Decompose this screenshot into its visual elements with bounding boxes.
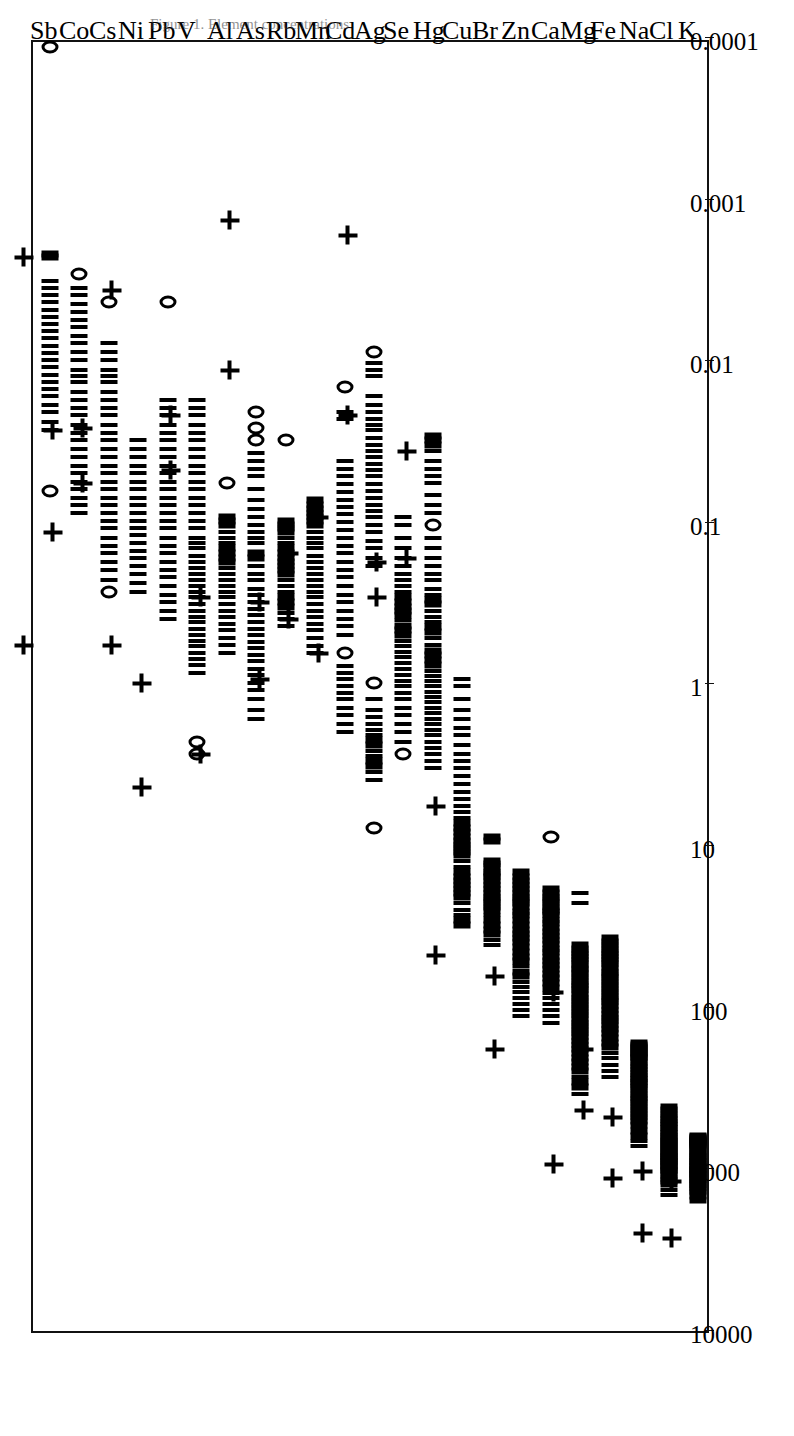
data-point-cd	[336, 551, 353, 555]
data-point-fe	[601, 1069, 618, 1073]
data-point-ni	[130, 519, 147, 523]
data-point-cu	[454, 816, 471, 820]
data-point-cd	[336, 575, 353, 579]
data-point-mn	[307, 566, 324, 570]
data-point-hg	[424, 669, 441, 673]
data-point-cd	[336, 609, 353, 613]
data-point-mn	[307, 590, 324, 594]
data-point-cu	[454, 790, 471, 794]
data-point-hg	[424, 587, 441, 591]
data-point-ni	[130, 447, 147, 451]
category-label-cs: Cs	[89, 18, 116, 44]
data-point-cs	[100, 487, 117, 491]
data-point-cd	[336, 544, 353, 548]
data-point-v	[189, 620, 206, 624]
data-point-co	[71, 406, 88, 410]
summary-marker-cl	[633, 1162, 652, 1181]
summary-marker-ni	[103, 635, 122, 654]
data-point-hg	[424, 752, 441, 756]
data-point-v	[189, 496, 206, 500]
data-point-cd	[336, 528, 353, 532]
data-point-v	[189, 572, 206, 576]
data-point-v	[189, 438, 206, 442]
data-point-ag	[366, 515, 383, 519]
data-point-mg	[572, 901, 589, 905]
data-point-v	[189, 657, 206, 661]
data-point-co	[71, 511, 88, 515]
data-point-v	[189, 471, 206, 475]
data-point-cu	[454, 859, 471, 863]
summary-marker-na	[604, 1169, 623, 1188]
data-point-co	[71, 325, 88, 329]
data-point-cs	[100, 519, 117, 523]
data-point-as	[248, 673, 265, 677]
data-point-se	[395, 515, 412, 519]
data-point-se	[395, 584, 412, 588]
summary-marker-pb	[132, 673, 151, 692]
data-point-sb	[41, 373, 58, 377]
summary-marker-ag	[339, 225, 358, 244]
data-point-zn	[513, 985, 530, 989]
data-point-sb	[41, 485, 58, 498]
data-point-zn	[513, 968, 530, 975]
data-point-na	[631, 1139, 648, 1143]
data-point-co	[71, 350, 88, 354]
data-point-rb	[277, 541, 294, 545]
data-point-as	[248, 451, 265, 455]
data-point-v	[189, 633, 206, 637]
data-point-v	[189, 423, 206, 427]
category-label-co: Co	[59, 18, 89, 44]
data-point-ag	[366, 547, 383, 551]
data-point-cd	[336, 722, 353, 726]
data-point-cu	[454, 726, 471, 730]
data-point-as	[248, 578, 265, 582]
data-point-al	[218, 572, 235, 576]
data-point-cs	[100, 399, 117, 403]
data-point-ag	[366, 503, 383, 507]
summary-marker-as	[221, 211, 240, 230]
summary-marker-cu	[427, 946, 446, 965]
data-point-ag	[366, 423, 383, 427]
data-point-pb	[159, 406, 176, 410]
data-point-na	[631, 1039, 648, 1046]
data-point-ag	[366, 778, 383, 782]
data-point-ag	[366, 564, 383, 568]
data-point-ca	[542, 1002, 559, 1006]
data-point-br	[483, 943, 500, 947]
data-point-v	[189, 595, 206, 599]
data-point-pb	[159, 431, 176, 435]
data-point-ca	[542, 830, 559, 843]
data-point-se	[395, 536, 412, 540]
data-point-as	[248, 523, 265, 527]
summary-marker-cu	[427, 797, 446, 816]
data-point-cd	[336, 671, 353, 675]
data-point-br	[483, 913, 500, 917]
data-point-cd	[336, 474, 353, 478]
data-point-hg	[424, 695, 441, 699]
data-point-cu	[454, 718, 471, 722]
data-point-pb	[159, 575, 176, 579]
category-label-se: Se	[383, 18, 409, 44]
data-point-ag	[366, 374, 383, 378]
data-point-fe	[601, 1051, 618, 1055]
data-point-ag	[366, 697, 383, 701]
category-label-ni: Ni	[118, 18, 144, 44]
data-point-se	[395, 639, 412, 643]
data-point-as	[248, 564, 265, 568]
data-point-hg	[424, 518, 441, 531]
data-point-mn	[307, 584, 324, 588]
data-point-hg	[424, 459, 441, 463]
value-axis-tick	[705, 684, 714, 685]
data-point-cs	[100, 406, 117, 410]
data-point-ni	[130, 556, 147, 560]
data-point-sb	[41, 387, 58, 391]
data-point-co	[71, 390, 88, 394]
value-axis-tick-label: 100	[690, 999, 728, 1024]
category-label-na: Na	[619, 18, 649, 44]
data-point-se	[395, 691, 412, 695]
data-point-mn	[307, 636, 324, 640]
data-point-cs	[100, 544, 117, 548]
data-point-cd	[336, 410, 353, 414]
data-point-cd	[336, 617, 353, 621]
category-label-mg: Mg	[560, 18, 596, 44]
